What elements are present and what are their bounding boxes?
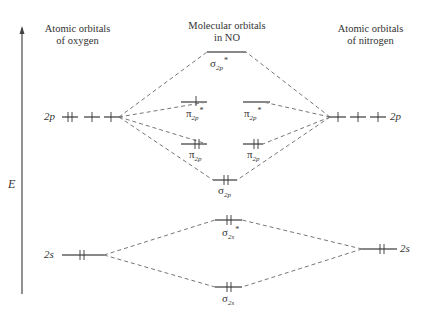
mo-label-sigma-2p-star: σ2p* <box>210 56 228 72</box>
mo-label-pi-2p-a: π2p <box>189 148 202 163</box>
nitrogen-2p-label: 2p <box>390 110 401 122</box>
mo-diagram <box>0 0 422 316</box>
mo-label-sigma-2s: σ2s <box>222 292 234 307</box>
energy-levels <box>62 52 397 287</box>
correlation-lines <box>104 52 362 287</box>
mo-label-pi-2p-star-a: π2p* <box>186 106 204 122</box>
mo-label-pi-2p-b: π2p <box>247 148 260 163</box>
energy-axis-label: E <box>8 177 15 192</box>
nitrogen-2s-label: 2s <box>400 242 410 254</box>
mo-label-sigma-2s-star: σ2s* <box>222 225 239 241</box>
arrow-up-icon <box>20 26 25 34</box>
oxygen-2p-label: 2p <box>44 110 55 122</box>
oxygen-2s-label: 2s <box>44 248 54 260</box>
energy-axis <box>20 26 25 294</box>
mo-label-sigma-2p: σ2p <box>218 184 231 199</box>
mo-label-pi-2p-star-b: π2p* <box>244 106 262 122</box>
